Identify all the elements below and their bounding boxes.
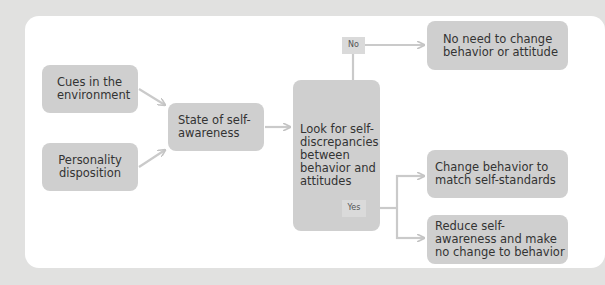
node-no-need-to-change: No need to change behavior or attitude (427, 21, 568, 70)
node-look-for-self-discrepancies: Look for self-discrepancies between beha… (293, 80, 380, 231)
node-cues-in-environment: Cues in the environment (42, 65, 138, 113)
node-change-behavior: Change behavior to match self-standards (427, 150, 568, 198)
node-label: Personality disposition (55, 154, 125, 180)
node-personality-disposition: Personality disposition (42, 143, 138, 191)
node-label: Reduce self-awareness and make no change… (435, 220, 565, 259)
node-label: State of self-awareness (178, 114, 262, 140)
node-label: Look for self-discrepancies between beha… (300, 123, 378, 188)
node-label: Cues in the environment (57, 76, 127, 102)
branch-label-yes: Yes (342, 200, 366, 217)
branch-label-no: No (342, 37, 365, 54)
node-label: Change behavior to match self-standards (435, 161, 563, 187)
node-reduce-self-awareness: Reduce self-awareness and make no change… (427, 215, 568, 264)
node-label: No need to change behavior or attitude (443, 33, 561, 59)
node-state-of-self-awareness: State of self-awareness (168, 103, 264, 151)
